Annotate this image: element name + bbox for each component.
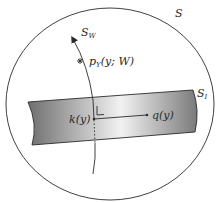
label-s-i-sub: I — [205, 93, 208, 101]
label-p-args: (y; W) — [101, 55, 134, 68]
label-s: S — [175, 8, 183, 19]
label-s-w-sub: W — [89, 32, 96, 40]
label-k-text: k(y) — [69, 113, 90, 126]
label-s-i: SI — [197, 88, 207, 101]
point-q-icon — [146, 114, 148, 116]
label-q-text: q(y) — [152, 109, 174, 122]
curve-s-w-lower — [93, 143, 95, 174]
label-s-w-main: S — [81, 26, 89, 39]
label-p-y: pY(y; W) — [89, 56, 134, 69]
label-k: k(y) — [69, 114, 90, 125]
label-p-main: p — [89, 55, 96, 68]
curve-s-w-upper — [73, 39, 93, 100]
label-s-i-main: S — [197, 87, 205, 100]
label-s-text: S — [175, 7, 183, 20]
manifold-diagram — [0, 0, 218, 202]
label-s-w: SW — [81, 27, 96, 40]
label-q: q(y) — [152, 110, 174, 121]
